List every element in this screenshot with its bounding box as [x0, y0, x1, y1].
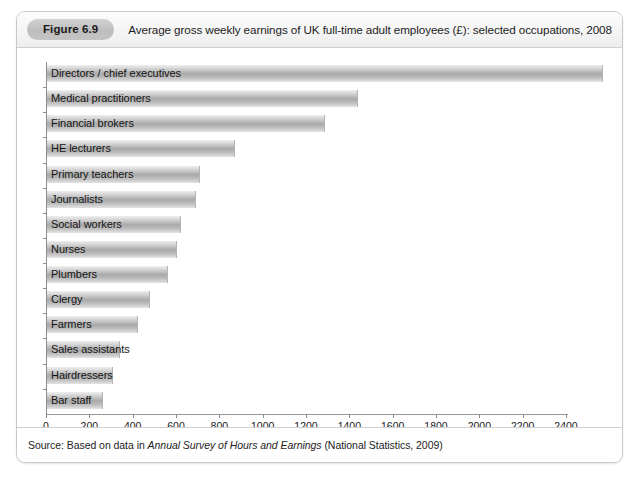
x-axis-tick: [479, 414, 480, 418]
bar-row: Journalists: [47, 188, 607, 213]
bar-category-label: HE lecturers: [51, 140, 111, 157]
bar-row: Farmers: [47, 313, 607, 338]
bar-category-label: Sales assistants: [51, 341, 130, 358]
bar-category-label: Farmers: [51, 316, 92, 333]
bar-category-label: Financial brokers: [51, 115, 134, 132]
bar-row: HE lecturers: [47, 137, 607, 162]
x-axis-tick: [219, 414, 220, 418]
bar-category-label: Social workers: [51, 216, 122, 233]
x-axis-tick: [89, 414, 90, 418]
bar-row: Bar staff: [47, 389, 607, 414]
bar-series: Directors / chief executivesMedical prac…: [47, 62, 607, 414]
figure-number-badge: Figure 6.9: [27, 19, 114, 40]
bar-row: Plumbers: [47, 263, 607, 288]
x-axis-tick: [306, 414, 307, 418]
bar-category-label: Nurses: [51, 241, 86, 258]
bar-category-label: Plumbers: [51, 266, 97, 283]
bar-row: Hairdressers: [47, 364, 607, 389]
chart-plot-area: Directors / chief executivesMedical prac…: [17, 48, 622, 428]
bar-row: Directors / chief executives: [47, 62, 607, 87]
bar-category-label: Bar staff: [51, 392, 91, 409]
bar-category-label: Medical practitioners: [51, 90, 151, 107]
figure-title: Average gross weekly earnings of UK full…: [128, 23, 622, 36]
x-axis-tick: [176, 414, 177, 418]
source-prefix: Source: Based on data in: [28, 439, 148, 451]
bar-row: Financial brokers: [47, 112, 607, 137]
x-axis-tick: [349, 414, 350, 418]
figure-frame: Figure 6.9 Average gross weekly earnings…: [16, 11, 623, 463]
bar-category-label: Journalists: [51, 191, 103, 208]
x-axis-tick: [263, 414, 264, 418]
bar-row: Clergy: [47, 288, 607, 313]
x-axis-tick: [393, 414, 394, 418]
figure-header: Figure 6.9 Average gross weekly earnings…: [17, 12, 622, 48]
x-axis-tick: [566, 414, 567, 418]
bar-row: Sales assistants: [47, 338, 607, 363]
bar-row: Nurses: [47, 238, 607, 263]
bar-category-label: Primary teachers: [51, 166, 133, 183]
bar-category-label: Hairdressers: [51, 367, 113, 384]
x-axis-tick: [436, 414, 437, 418]
bar-row: Medical practitioners: [47, 87, 607, 112]
bar-row: Primary teachers: [47, 163, 607, 188]
bar-category-label: Directors / chief executives: [51, 65, 181, 82]
x-axis-tick: [133, 414, 134, 418]
source-suffix: (National Statistics, 2009): [322, 439, 443, 451]
bar-row: Social workers: [47, 213, 607, 238]
x-axis-tick: [523, 414, 524, 418]
x-axis-tick: [46, 414, 47, 418]
figure-source: Source: Based on data in Annual Survey o…: [17, 427, 622, 462]
bar-category-label: Clergy: [51, 291, 83, 308]
source-title: Annual Survey of Hours and Earnings: [148, 439, 322, 451]
